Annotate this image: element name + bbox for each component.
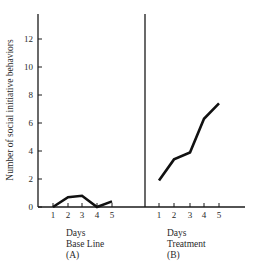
x-tick-label: 2 — [172, 210, 177, 220]
x-tick-label: 5 — [110, 210, 115, 220]
panel-b-tag: (B) — [167, 250, 206, 261]
x-tick-label: 5 — [217, 210, 222, 220]
panel-b-xlabel: Days — [167, 228, 206, 239]
y-tick-label: 4 — [29, 146, 34, 156]
panel-a-tag: (A) — [66, 250, 104, 261]
y-tick-label: 0 — [29, 202, 34, 212]
y-tick-label: 12 — [24, 34, 33, 44]
x-tick-label: 4 — [202, 210, 207, 220]
chart-canvas: 0246810121234512345 — [0, 0, 257, 267]
x-tick-label: 1 — [157, 210, 162, 220]
x-tick-label: 3 — [188, 210, 193, 220]
series-line-b — [159, 103, 219, 180]
x-tick-label: 4 — [95, 210, 100, 220]
y-tick-label: 10 — [24, 62, 34, 72]
panel-a-caption: Days Base Line (A) — [66, 228, 104, 261]
panel-b-phase: Treatment — [167, 239, 206, 250]
panel-a-xlabel: Days — [66, 228, 104, 239]
x-tick-label: 2 — [66, 210, 71, 220]
y-axis-label: Number of social initiative behaviors — [5, 20, 17, 200]
panel-a-phase: Base Line — [66, 239, 104, 250]
panel-b-caption: Days Treatment (B) — [167, 228, 206, 261]
x-tick-label: 1 — [51, 210, 56, 220]
y-tick-label: 8 — [29, 90, 34, 100]
y-tick-label: 6 — [29, 118, 34, 128]
y-tick-label: 2 — [29, 174, 34, 184]
x-tick-label: 3 — [80, 210, 85, 220]
